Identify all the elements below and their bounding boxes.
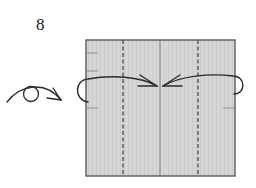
paper-square: [86, 40, 235, 176]
origami-diagram: [0, 0, 256, 188]
turn-over-icon: [7, 87, 61, 103]
